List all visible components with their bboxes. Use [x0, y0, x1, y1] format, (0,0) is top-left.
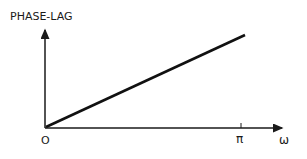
x-axis-label: ω	[279, 133, 289, 147]
data-line	[46, 35, 245, 127]
y-axis-label: PHASE-LAG	[10, 10, 73, 23]
origin-label: O	[41, 134, 50, 147]
pi-label: π	[236, 132, 243, 146]
phase-lag-chart: PHASE-LAG O π ω	[0, 0, 307, 159]
